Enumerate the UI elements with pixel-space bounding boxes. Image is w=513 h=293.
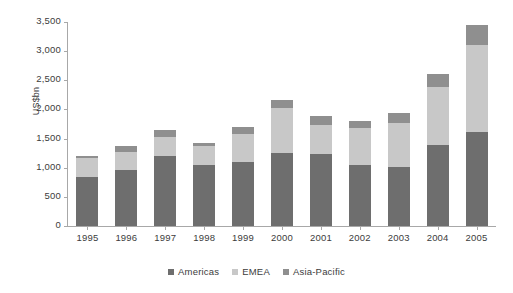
y-tick-label: 0 xyxy=(56,219,61,230)
bar-segment[interactable] xyxy=(154,137,176,156)
bar-segment[interactable] xyxy=(349,165,371,226)
bar-group[interactable] xyxy=(193,143,215,226)
x-tick-mark xyxy=(360,226,361,230)
legend-swatch-icon xyxy=(168,269,174,275)
x-tick-label: 1998 xyxy=(184,232,224,243)
bar-segment[interactable] xyxy=(466,45,488,131)
bar-group[interactable] xyxy=(427,74,449,226)
bar-segment[interactable] xyxy=(427,87,449,145)
bar-series-container xyxy=(68,22,496,226)
legend-label: EMEA xyxy=(242,266,270,277)
x-tick-mark xyxy=(243,226,244,230)
bar-segment[interactable] xyxy=(271,100,293,108)
x-tick-mark xyxy=(399,226,400,230)
y-tick-label: 500 xyxy=(45,190,61,201)
bar-segment[interactable] xyxy=(427,145,449,226)
x-tick-label: 2005 xyxy=(457,232,497,243)
bar-group[interactable] xyxy=(271,100,293,226)
x-tick-label: 2004 xyxy=(418,232,458,243)
bar-segment[interactable] xyxy=(76,158,98,177)
legend-label: Asia-Pacific xyxy=(293,266,345,277)
x-tick-label: 1999 xyxy=(223,232,263,243)
bar-segment[interactable] xyxy=(466,25,488,45)
plot-area: 05001,0001,5002,0002,5003,0003,500 xyxy=(68,22,496,226)
chart-legend: AmericasEMEAAsia-Pacific xyxy=(0,266,513,277)
bar-segment[interactable] xyxy=(115,152,137,170)
bar-segment[interactable] xyxy=(154,130,176,137)
x-tick-mark xyxy=(126,226,127,230)
x-tick-mark xyxy=(477,226,478,230)
y-tick-label: 2,500 xyxy=(36,73,61,84)
x-tick-mark xyxy=(321,226,322,230)
legend-item[interactable]: Americas xyxy=(168,266,219,277)
x-tick-label: 1995 xyxy=(67,232,107,243)
bar-group[interactable] xyxy=(76,156,98,226)
bar-group[interactable] xyxy=(115,146,137,226)
x-tick-label: 2000 xyxy=(262,232,302,243)
y-tick-label: 3,500 xyxy=(36,15,61,26)
x-axis-labels: 1995199619971998199920002001200220032004… xyxy=(68,232,496,246)
y-tick-mark xyxy=(64,226,68,227)
bar-segment[interactable] xyxy=(271,108,293,153)
bar-segment[interactable] xyxy=(349,128,371,165)
bar-segment[interactable] xyxy=(388,113,410,123)
bar-segment[interactable] xyxy=(76,156,98,158)
y-tick-label: 1,500 xyxy=(36,132,61,143)
stacked-bar-chart: US$bn 05001,0001,5002,0002,5003,0003,500… xyxy=(0,0,513,293)
bar-group[interactable] xyxy=(154,130,176,226)
x-tick-mark xyxy=(282,226,283,230)
legend-swatch-icon xyxy=(232,269,238,275)
bar-segment[interactable] xyxy=(115,170,137,226)
y-tick-label: 2,000 xyxy=(36,102,61,113)
legend-item[interactable]: Asia-Pacific xyxy=(283,266,345,277)
legend-item[interactable]: EMEA xyxy=(232,266,270,277)
x-tick-mark xyxy=(87,226,88,230)
x-tick-mark xyxy=(165,226,166,230)
x-tick-mark xyxy=(204,226,205,230)
bar-segment[interactable] xyxy=(310,116,332,124)
bar-segment[interactable] xyxy=(76,177,98,226)
y-tick-label: 1,000 xyxy=(36,161,61,172)
x-tick-label: 1997 xyxy=(145,232,185,243)
x-tick-label: 2002 xyxy=(340,232,380,243)
bar-segment[interactable] xyxy=(427,74,449,87)
bar-segment[interactable] xyxy=(193,146,215,165)
bar-segment[interactable] xyxy=(271,153,293,226)
bar-segment[interactable] xyxy=(193,165,215,226)
bar-segment[interactable] xyxy=(232,134,254,163)
x-tick-label: 2003 xyxy=(379,232,419,243)
bar-segment[interactable] xyxy=(115,146,137,152)
bar-segment[interactable] xyxy=(310,154,332,226)
bar-segment[interactable] xyxy=(466,132,488,226)
bar-group[interactable] xyxy=(310,116,332,226)
bar-segment[interactable] xyxy=(310,125,332,155)
bar-group[interactable] xyxy=(466,25,488,226)
bar-segment[interactable] xyxy=(388,123,410,167)
bar-group[interactable] xyxy=(388,113,410,226)
legend-swatch-icon xyxy=(283,269,289,275)
x-tick-label: 1996 xyxy=(106,232,146,243)
bar-group[interactable] xyxy=(349,121,371,226)
legend-label: Americas xyxy=(178,266,219,277)
x-tick-label: 2001 xyxy=(301,232,341,243)
bar-segment[interactable] xyxy=(193,143,215,146)
bar-segment[interactable] xyxy=(232,127,254,134)
bar-segment[interactable] xyxy=(154,156,176,226)
y-tick-label: 3,000 xyxy=(36,44,61,55)
x-tick-mark xyxy=(438,226,439,230)
bar-segment[interactable] xyxy=(232,162,254,226)
bar-group[interactable] xyxy=(232,127,254,226)
bar-segment[interactable] xyxy=(349,121,371,128)
bar-segment[interactable] xyxy=(388,167,410,226)
